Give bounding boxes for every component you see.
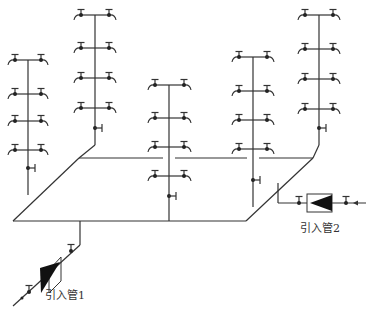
water-supply-diagram [0, 0, 374, 312]
riser-3 [148, 80, 191, 222]
riser-5 [298, 10, 340, 159]
inlet-label-1: 引入管1 [45, 286, 85, 302]
riser-4 [232, 52, 274, 208]
inlet-label-2: 引入管2 [300, 219, 340, 235]
riser-2 [74, 10, 116, 159]
inlet-pipe-2 [278, 183, 366, 212]
riser-1 [8, 55, 48, 196]
main-pipe-loop [13, 158, 313, 221]
